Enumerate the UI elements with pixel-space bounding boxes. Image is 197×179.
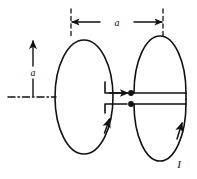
terminal-dot-lower: [128, 101, 134, 107]
twin-lead-feedline: [105, 82, 186, 113]
terminal-dot-upper: [128, 90, 134, 96]
figure-container: a a I: [0, 0, 197, 179]
current-label: I: [176, 158, 182, 170]
diagram-canvas: a a I: [0, 0, 197, 179]
feedline-lower-right-segment: [134, 99, 186, 104]
left-current-loop: [55, 40, 113, 154]
horizontal-dimension-label: a: [115, 17, 120, 28]
feedline-upper-left-segment: [105, 82, 127, 93]
feedline-upper-right-segment: [134, 93, 186, 99]
right-loop-lower-arc: [134, 104, 186, 161]
right-loop-upper-arc: [134, 36, 186, 93]
feedline-lower-left-segment: [105, 104, 127, 113]
vertical-dimension-label: a: [31, 67, 36, 78]
